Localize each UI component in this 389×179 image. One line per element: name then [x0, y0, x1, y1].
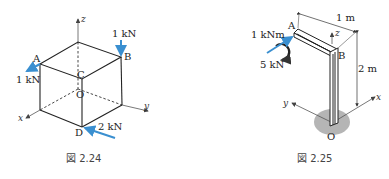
cube-edges: [40, 42, 122, 127]
point-A-label: A: [32, 53, 41, 64]
caption-2-24: 図 2.24: [66, 153, 101, 164]
y-axis-label: y: [143, 101, 150, 111]
figure-2-24: z y x A B C O D 1 kN 1 kN 2 kN 図 2.24: [16, 14, 150, 164]
x-axis-label: x: [376, 92, 381, 102]
point-O-label: O: [327, 131, 335, 142]
point-B-label: B: [124, 51, 131, 62]
force-label: 5 kN: [260, 59, 285, 70]
y-axis-label: y: [282, 98, 289, 108]
force-A-label: 1 kN: [16, 74, 41, 85]
x-axis-label: x: [18, 113, 23, 123]
force-B-label: 1 kN: [112, 28, 137, 39]
dim-1m-label: 1 m: [336, 12, 356, 23]
figure-2-25: A B O z y x 1 kNm 5 kN 1 m 2 m 図 2.25: [251, 12, 381, 164]
point-D-label: D: [75, 127, 83, 138]
caption-2-25: 図 2.25: [297, 153, 332, 164]
figure-canvas: z y x A B C O D 1 kN 1 kN 2 kN 図 2.24: [0, 0, 389, 179]
moment-label: 1 kNm: [251, 29, 285, 40]
z-axis-label: z: [334, 28, 340, 38]
dim-ext-line: [298, 13, 299, 28]
dim-ext-line: [338, 31, 357, 48]
point-B-label: B: [338, 50, 345, 61]
point-A-label: A: [287, 20, 296, 31]
x-axis: [26, 110, 40, 118]
l-bar: [294, 29, 338, 126]
point-O-label: O: [76, 89, 84, 100]
force-D-label: 2 kN: [98, 121, 123, 132]
x-axis: [337, 97, 375, 120]
force-arrow-A: [27, 64, 40, 71]
point-C-label: C: [77, 69, 85, 80]
z-axis-label: z: [80, 14, 86, 24]
dim-2m-label: 2 m: [358, 63, 378, 74]
